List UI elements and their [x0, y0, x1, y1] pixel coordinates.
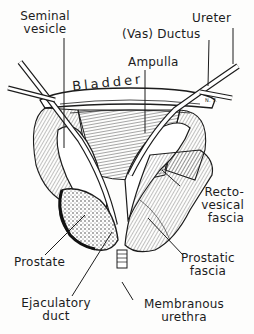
- label-ejaculatory-line2: duct: [10, 310, 102, 323]
- label-seminal-vesicle: Seminal vesicle: [14, 10, 76, 36]
- anatomy-figure: Seminal vesicle (Vas) Ductus Ureter Ampu…: [0, 0, 254, 334]
- label-ampulla: Ampulla: [128, 56, 179, 69]
- label-vas-ductus: (Vas) Ductus: [122, 28, 200, 41]
- label-rectovesical-line3: fascia: [182, 212, 244, 225]
- membranous-urethra-shape: [117, 250, 127, 268]
- label-prostate: Prostate: [14, 256, 65, 269]
- label-membranous-urethra: Membranous urethra: [134, 298, 234, 324]
- label-rectovesical-fascia: Recto- vesical fascia: [182, 186, 244, 225]
- label-ejaculatory-duct: Ejaculatory duct: [10, 297, 102, 323]
- label-seminal-vesicle-line2: vesicle: [14, 23, 76, 36]
- artist-signature: N. T.: [205, 94, 217, 107]
- anatomy-drawing: [0, 0, 254, 334]
- label-ureter: Ureter: [192, 12, 231, 25]
- label-prostatic-fascia-line2: fascia: [170, 265, 246, 278]
- label-membranous-line2: urethra: [134, 311, 234, 324]
- label-prostatic-fascia: Prostatic fascia: [170, 252, 246, 278]
